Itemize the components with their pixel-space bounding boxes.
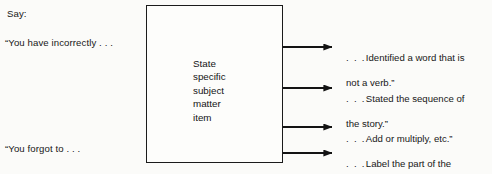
say-label: Say: bbox=[7, 8, 27, 20]
outcome-line-1: Add or multiply, etc.” bbox=[366, 133, 453, 144]
outcome-line-1: Label the part of the bbox=[366, 158, 451, 169]
ellipsis-lead: . . . bbox=[346, 133, 366, 144]
arrow-group bbox=[283, 47, 332, 153]
outcome-line-1: Stated the sequence of bbox=[366, 93, 465, 104]
outcome-item: . . .Label the part of the shoulder’s bo… bbox=[330, 145, 451, 174]
ellipsis-lead: . . . bbox=[346, 158, 366, 169]
outcome-line-1: Identified a word that is bbox=[366, 52, 465, 63]
ellipsis-lead: . . . bbox=[346, 93, 366, 104]
ellipsis-lead: . . . bbox=[346, 52, 366, 63]
outcome-column: . . .Identified a word that is not a ver… bbox=[330, 0, 492, 174]
center-box-label: State specific subject matter item bbox=[193, 57, 226, 124]
prompt-incorrectly: “You have incorrectly . . . bbox=[5, 37, 113, 49]
prompt-column: Say: “You have incorrectly . . . “You fo… bbox=[0, 0, 146, 174]
prompt-forgot-to: “You forgot to . . . bbox=[5, 143, 80, 155]
state-specific-item-box: State specific subject matter item bbox=[146, 5, 283, 163]
feedback-statement-diagram: Say: “You have incorrectly . . . “You fo… bbox=[0, 0, 492, 174]
